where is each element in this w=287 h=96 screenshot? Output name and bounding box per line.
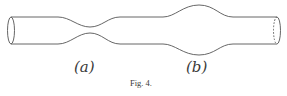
right-end-front — [277, 17, 281, 44]
right-end-back-dashed — [274, 17, 278, 44]
left-end-ellipse — [8, 17, 15, 44]
label-b: (b) — [186, 58, 207, 76]
tube-bottom-outline — [11, 33, 277, 55]
label-a: (a) — [74, 58, 95, 76]
figure-caption: Fig. 4. — [130, 78, 152, 88]
tube-top-outline — [11, 5, 277, 27]
